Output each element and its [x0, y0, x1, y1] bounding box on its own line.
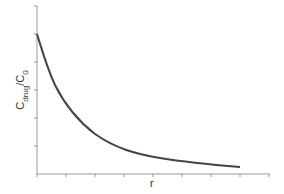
x-axis-label: r	[150, 177, 154, 189]
y-axis-label: Cdrug/C0	[14, 70, 29, 109]
chart-plot	[0, 0, 284, 194]
decay-curve	[37, 34, 240, 167]
